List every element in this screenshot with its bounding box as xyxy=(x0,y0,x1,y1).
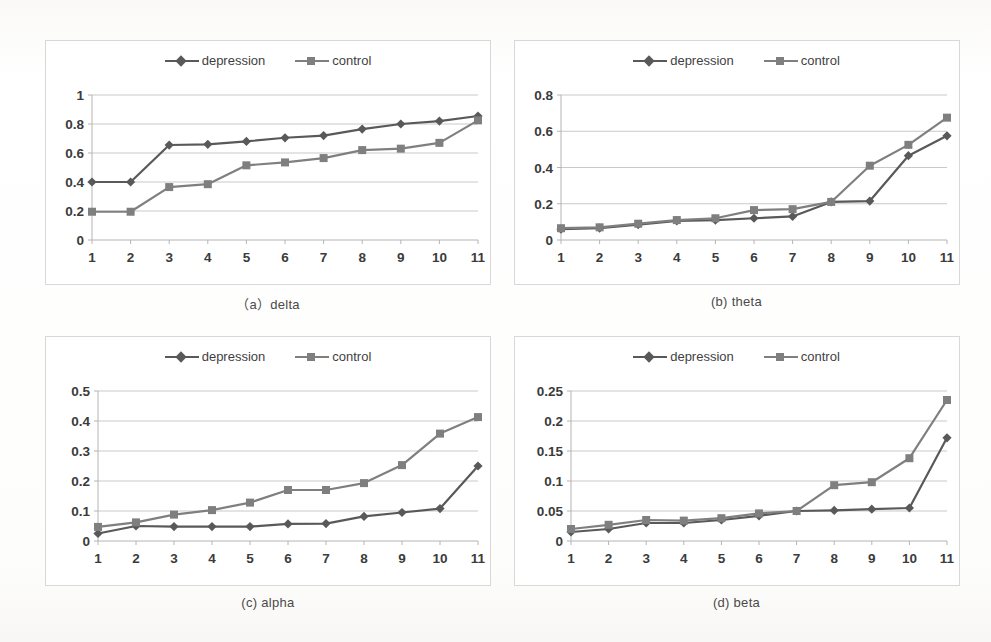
svg-text:4: 4 xyxy=(204,250,212,265)
svg-text:4: 4 xyxy=(680,551,688,566)
svg-text:3: 3 xyxy=(165,250,173,265)
svg-text:0.15: 0.15 xyxy=(536,444,563,459)
svg-text:5: 5 xyxy=(717,551,725,566)
svg-text:0.5: 0.5 xyxy=(71,384,90,399)
svg-text:7: 7 xyxy=(792,551,800,566)
svg-text:10: 10 xyxy=(432,551,447,566)
svg-text:7: 7 xyxy=(320,250,328,265)
svg-text:0: 0 xyxy=(82,534,90,549)
svg-text:9: 9 xyxy=(866,250,874,265)
svg-text:1: 1 xyxy=(567,551,575,566)
svg-text:0.25: 0.25 xyxy=(536,384,563,399)
svg-text:11: 11 xyxy=(939,250,954,265)
svg-text:7: 7 xyxy=(788,250,796,265)
svg-text:8: 8 xyxy=(358,250,366,265)
svg-text:0.2: 0.2 xyxy=(544,414,563,429)
svg-text:0.1: 0.1 xyxy=(544,474,563,489)
chart-panel-theta: depression control 00.20.40.60.812345678… xyxy=(514,40,960,285)
svg-text:8: 8 xyxy=(360,551,368,566)
svg-text:0: 0 xyxy=(76,233,84,248)
chart-caption-delta: （a）delta xyxy=(45,294,491,313)
chart-panel-delta: depression control 00.20.40.60.811234567… xyxy=(45,40,491,285)
svg-text:1: 1 xyxy=(557,250,565,265)
svg-text:10: 10 xyxy=(900,250,915,265)
chart-cell-beta: depression control 00.050.10.150.20.2512… xyxy=(496,321,991,642)
plot-theta: 00.20.40.60.81234567891011 xyxy=(515,41,961,286)
svg-text:0: 0 xyxy=(545,233,553,248)
svg-text:0.8: 0.8 xyxy=(534,88,553,103)
plot-beta: 00.050.10.150.20.251234567891011 xyxy=(515,337,961,587)
svg-text:0.4: 0.4 xyxy=(534,161,553,176)
chart-cell-alpha: depression control 00.10.20.30.40.512345… xyxy=(0,321,496,642)
svg-text:2: 2 xyxy=(127,250,135,265)
svg-text:6: 6 xyxy=(284,551,292,566)
svg-text:0.4: 0.4 xyxy=(71,414,90,429)
chart-caption-alpha: (c) alpha xyxy=(45,595,491,610)
svg-text:1: 1 xyxy=(94,551,102,566)
svg-text:0.4: 0.4 xyxy=(65,175,84,190)
chart-caption-beta: (d) beta xyxy=(514,595,960,610)
chart-panel-beta: depression control 00.050.10.150.20.2512… xyxy=(514,336,960,586)
svg-text:3: 3 xyxy=(642,551,650,566)
svg-text:3: 3 xyxy=(634,250,642,265)
svg-text:8: 8 xyxy=(830,551,838,566)
chart-cell-theta: depression control 00.20.40.60.812345678… xyxy=(496,0,991,321)
svg-text:5: 5 xyxy=(243,250,251,265)
svg-text:5: 5 xyxy=(711,250,719,265)
svg-text:0.6: 0.6 xyxy=(534,124,553,139)
figure-grid: depression control 00.20.40.60.811234567… xyxy=(0,0,991,642)
svg-text:2: 2 xyxy=(132,551,140,566)
svg-text:0.2: 0.2 xyxy=(534,197,553,212)
svg-text:10: 10 xyxy=(432,250,447,265)
svg-text:3: 3 xyxy=(170,551,178,566)
svg-text:0.3: 0.3 xyxy=(71,444,90,459)
svg-text:8: 8 xyxy=(827,250,835,265)
svg-text:11: 11 xyxy=(471,250,486,265)
chart-cell-delta: depression control 00.20.40.60.811234567… xyxy=(0,0,496,321)
plot-alpha: 00.10.20.30.40.51234567891011 xyxy=(46,337,492,587)
svg-text:9: 9 xyxy=(868,551,876,566)
plot-delta: 00.20.40.60.811234567891011 xyxy=(46,41,492,286)
svg-text:6: 6 xyxy=(281,250,289,265)
svg-text:9: 9 xyxy=(398,551,406,566)
svg-text:2: 2 xyxy=(604,551,612,566)
svg-text:1: 1 xyxy=(88,250,96,265)
svg-text:11: 11 xyxy=(471,551,486,566)
svg-text:0: 0 xyxy=(555,534,563,549)
svg-text:6: 6 xyxy=(750,250,758,265)
svg-text:0.2: 0.2 xyxy=(71,474,90,489)
svg-text:4: 4 xyxy=(208,551,216,566)
svg-text:0.1: 0.1 xyxy=(71,504,90,519)
svg-text:0.6: 0.6 xyxy=(65,146,84,161)
svg-text:5: 5 xyxy=(246,551,254,566)
chart-panel-alpha: depression control 00.10.20.30.40.512345… xyxy=(45,336,491,586)
svg-text:2: 2 xyxy=(595,250,603,265)
svg-text:4: 4 xyxy=(673,250,681,265)
svg-text:0.8: 0.8 xyxy=(65,117,84,132)
svg-text:7: 7 xyxy=(322,551,330,566)
svg-text:10: 10 xyxy=(901,551,916,566)
chart-caption-theta: (b) theta xyxy=(514,294,960,309)
svg-text:0.05: 0.05 xyxy=(536,504,563,519)
svg-text:6: 6 xyxy=(755,551,763,566)
svg-text:9: 9 xyxy=(397,250,405,265)
svg-text:0.2: 0.2 xyxy=(65,204,84,219)
svg-text:11: 11 xyxy=(939,551,954,566)
svg-text:1: 1 xyxy=(76,88,84,103)
